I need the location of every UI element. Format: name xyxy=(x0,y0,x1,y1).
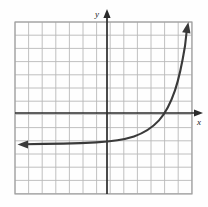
x-axis-label: x xyxy=(196,117,201,127)
exponential-graph-figure: y x xyxy=(0,0,208,207)
y-axis-label: y xyxy=(94,9,99,19)
figure-background xyxy=(0,0,208,207)
